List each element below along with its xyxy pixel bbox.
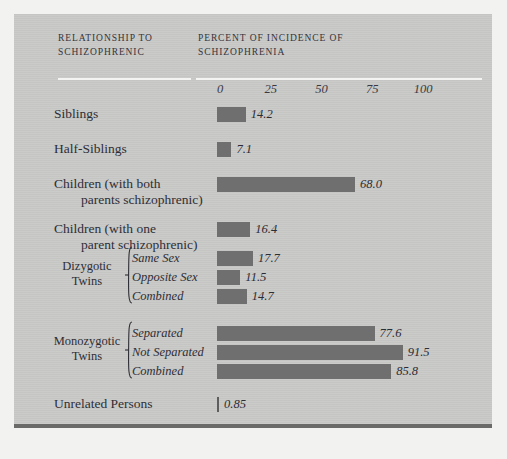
bar — [217, 270, 240, 285]
bar-value-label: 16.4 — [255, 221, 277, 238]
bar-value-label: 14.2 — [251, 106, 273, 123]
bar-row: 68.0Children (with both parents schizoph… — [14, 176, 492, 194]
row-label: Unrelated Persons — [54, 396, 204, 412]
bar — [217, 345, 403, 360]
bar — [217, 107, 246, 122]
axis-tick-0: 0 — [217, 82, 223, 97]
group-item-label: Combined — [132, 288, 212, 304]
group-item-label: Not Separated — [132, 344, 212, 360]
group-item-label: Same Sex — [132, 250, 212, 266]
bar — [217, 251, 253, 266]
bar-value-label: 68.0 — [360, 176, 382, 193]
bar-row: 85.8Combined — [14, 363, 492, 381]
bar — [217, 397, 219, 412]
column-header-percent: PERCENT OF INCIDENCE OF SCHIZOPHRENIA — [198, 31, 428, 59]
header-rule-right — [196, 78, 482, 80]
bar-row: 14.2Siblings — [14, 106, 492, 124]
bar-value-label: 7.1 — [236, 141, 252, 158]
bar-value-label: 17.7 — [258, 250, 280, 267]
group-item-label: Opposite Sex — [132, 269, 212, 285]
bottom-rule — [14, 424, 492, 428]
chart-panel: RELATIONSHIP TO SCHIZOPHRENIC PERCENT OF… — [14, 14, 492, 426]
bar-row: 17.7Same Sex — [14, 250, 492, 268]
bar-row: 14.7Combined — [14, 288, 492, 306]
row-label: Siblings — [54, 106, 204, 122]
bar — [217, 326, 375, 341]
bar-value-label: 85.8 — [396, 363, 418, 380]
row-label: Half-Siblings — [54, 141, 204, 157]
axis-tick-25: 25 — [265, 82, 278, 97]
bar-value-label: 91.5 — [408, 344, 430, 361]
axis-tick-50: 50 — [315, 82, 328, 97]
schizophrenia-incidence-chart: RELATIONSHIP TO SCHIZOPHRENIC PERCENT OF… — [14, 14, 492, 426]
bar-value-label: 0.85 — [224, 396, 246, 413]
x-axis: 0255075100 — [14, 82, 492, 98]
bar-row: 0.85Unrelated Persons — [14, 396, 492, 414]
row-label: Children (with both parents schizophreni… — [54, 176, 204, 208]
bar-value-label: 77.6 — [380, 325, 402, 342]
bar — [217, 364, 391, 379]
bar-row: 7.1Half-Siblings — [14, 141, 492, 159]
header-rule-left — [58, 78, 191, 80]
bar — [217, 289, 247, 304]
bar-row: 91.5Not Separated — [14, 344, 492, 362]
bar — [217, 177, 355, 192]
bar-row: 16.4Children (with one parent schizophre… — [14, 221, 492, 239]
group-item-label: Separated — [132, 325, 212, 341]
axis-tick-75: 75 — [366, 82, 379, 97]
axis-tick-100: 100 — [414, 82, 433, 97]
bar-row: 11.5Opposite Sex — [14, 269, 492, 287]
group-item-label: Combined — [132, 363, 212, 379]
bar — [217, 222, 250, 237]
bar-value-label: 14.7 — [252, 288, 274, 305]
bar-row: 77.6Separated — [14, 325, 492, 343]
column-header-relationship: RELATIONSHIP TO SCHIZOPHRENIC — [58, 31, 208, 59]
bar-value-label: 11.5 — [245, 269, 266, 286]
bar — [217, 142, 231, 157]
